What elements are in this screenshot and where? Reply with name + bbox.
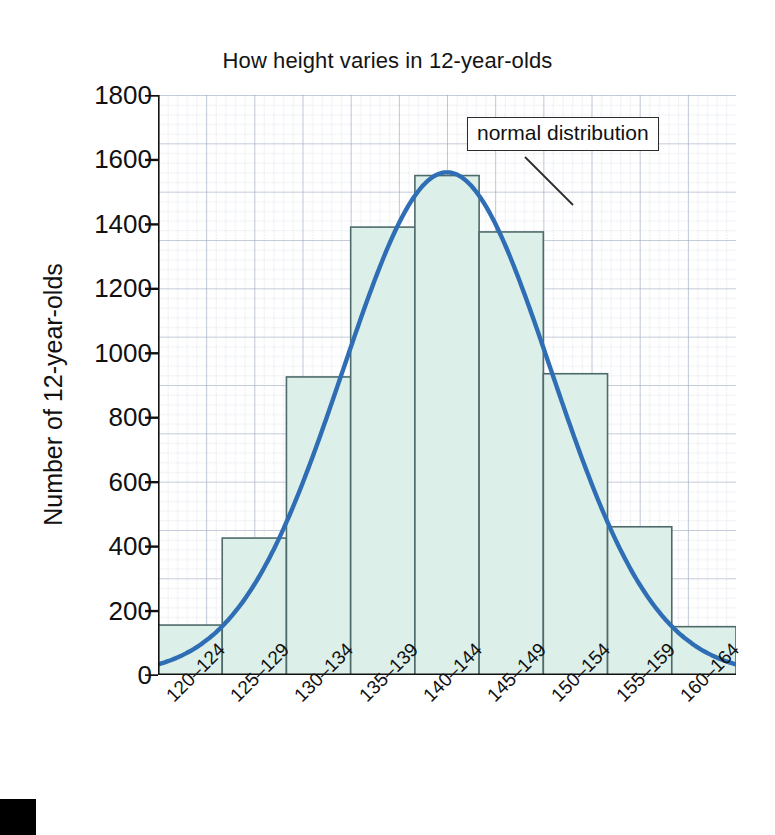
- y-tick-label: 800: [56, 404, 152, 430]
- y-tick-labels: 020040060080010001200140016001800: [40, 95, 152, 676]
- y-tick-label: 200: [56, 598, 152, 624]
- y-tick-label: 600: [56, 469, 152, 495]
- corner-marker: [0, 799, 36, 835]
- y-tick-label: 1600: [56, 146, 152, 172]
- x-tick-labels: 120–124125–129130–134135–139140–144145–1…: [158, 679, 736, 789]
- y-tick-label: 1800: [56, 82, 152, 108]
- plot-area: [158, 95, 736, 675]
- bar: [351, 227, 415, 675]
- y-tick-label: 1000: [56, 340, 152, 366]
- bar: [415, 176, 479, 675]
- bar: [479, 232, 543, 675]
- y-tick-label: 400: [56, 533, 152, 559]
- annotation-normal-distribution: normal distribution: [467, 117, 659, 151]
- y-tick-label: 0: [56, 662, 152, 688]
- y-tick-label: 1400: [56, 211, 152, 237]
- chart-title: How height varies in 12-year-olds: [0, 48, 775, 74]
- plot-svg: [158, 95, 736, 675]
- chart-figure: How height varies in 12-year-olds Number…: [0, 0, 775, 835]
- y-tick-label: 1200: [56, 275, 152, 301]
